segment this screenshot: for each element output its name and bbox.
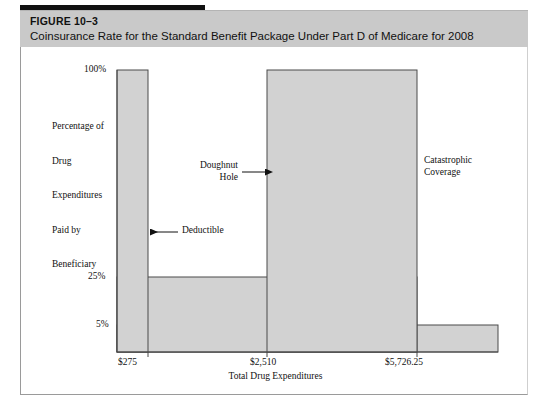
x-tick-label-5726: $5,726.25 [385,357,423,369]
y-axis-title: Percentage of Drug Expenditures Paid by … [52,98,104,294]
y-axis-title-line-3: Expenditures [52,190,104,202]
y-axis-title-line-4: Paid by [52,225,104,237]
y-axis-title-line-2: Drug [52,156,104,168]
annotation-doughnut-hole: Doughnut Hole [176,160,238,183]
x-tick-label-2510: $2,510 [250,357,276,369]
doughnut-hole-bar [267,70,417,352]
y-axis-title-line-1: Percentage of [52,121,104,133]
x-tick-label-275: $275 [118,357,137,369]
deductible-bar [117,70,148,352]
annotation-deductible: Deductible [182,225,224,237]
annotation-catastrophic-coverage: Catastrophic Coverage [424,155,472,178]
y-axis-title-line-5: Beneficiary [52,259,104,271]
y-tick-label-100: 100% [84,64,106,76]
y-tick-label-5: 5% [96,319,109,331]
x-axis-title: Total Drug Expenditures [0,371,551,383]
chart-plot-area: 100% 25% 5% $275 $2,510 $5,726.25 Percen… [0,0,551,414]
